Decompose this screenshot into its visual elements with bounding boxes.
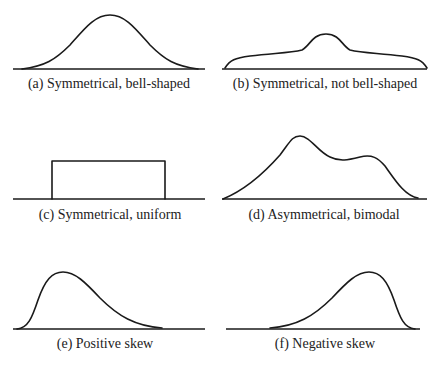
panel-e-caption: (e) Positive skew (57, 336, 154, 352)
panel-a-caption: (a) Symmetrical, bell-shaped (28, 76, 190, 92)
panel-b-curve (225, 34, 427, 68)
panel-b-caption: (b) Symmetrical, not bell-shaped (233, 76, 417, 92)
panel-d-caption: (d) Asymmetrical, bimodal (248, 207, 399, 223)
panel-c-caption: (c) Symmetrical, uniform (39, 207, 182, 223)
panel-f-caption: (f) Negative skew (275, 336, 376, 352)
panel-a: (a) Symmetrical, bell-shaped (13, 15, 205, 92)
panel-d: (d) Asymmetrical, bimodal (222, 136, 427, 223)
panel-f-negative-skew-curve (270, 272, 415, 329)
panel-f: (f) Negative skew (226, 272, 420, 352)
panel-b: (b) Symmetrical, not bell-shaped (222, 34, 427, 92)
panel-c-uniform-rectangle (52, 161, 165, 199)
panel-d-bimodal-curve (223, 136, 418, 199)
panel-e-positive-skew-curve (17, 272, 162, 329)
panel-a-bell-curve (22, 15, 198, 69)
panel-c: (c) Symmetrical, uniform (13, 161, 205, 223)
panel-e: (e) Positive skew (13, 272, 205, 352)
distribution-shapes-figure: (a) Symmetrical, bell-shaped (b) Symmetr… (0, 0, 440, 367)
